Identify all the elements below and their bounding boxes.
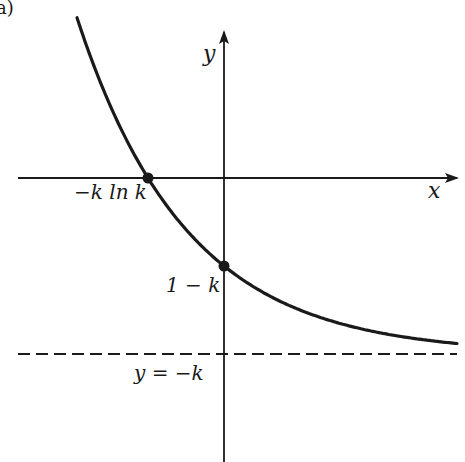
x-intercept-label: −k ln k — [74, 180, 147, 204]
x-axis-label: x — [428, 178, 441, 203]
exponential-graph: a) x y −k ln k 1 − k y = −k — [0, 0, 465, 462]
asymptote-label: y = −k — [133, 361, 204, 385]
y-intercept-point — [219, 261, 230, 272]
y-intercept-label: 1 − k — [166, 273, 220, 297]
y-axis-label: y — [202, 41, 216, 66]
panel-label: a) — [0, 0, 14, 18]
